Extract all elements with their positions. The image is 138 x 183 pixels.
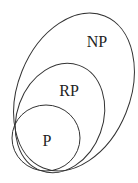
rp-ellipse	[0, 51, 119, 183]
rp-label: RP	[59, 82, 79, 99]
p-label: P	[43, 132, 52, 149]
np-label: NP	[87, 33, 108, 50]
complexity-class-diagram: NP RP P	[0, 0, 138, 183]
